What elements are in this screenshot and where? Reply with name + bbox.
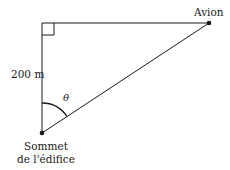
plane-label: Avion [193, 6, 224, 18]
summit-label-line1: Sommet [24, 140, 69, 152]
right-triangle-diagram: Avion 200 m θ Sommet de l'édifice [0, 0, 230, 170]
diagram-canvas: Avion 200 m θ Sommet de l'édifice [0, 0, 230, 170]
summit-point [40, 131, 45, 136]
height-label: 200 m [11, 68, 44, 80]
summit-label-line2: de l'édifice [17, 153, 75, 165]
right-angle-marker [42, 23, 54, 35]
angle-label: θ [63, 92, 69, 103]
hypotenuse [42, 23, 209, 133]
angle-arc [42, 103, 67, 117]
plane-point [207, 21, 212, 26]
